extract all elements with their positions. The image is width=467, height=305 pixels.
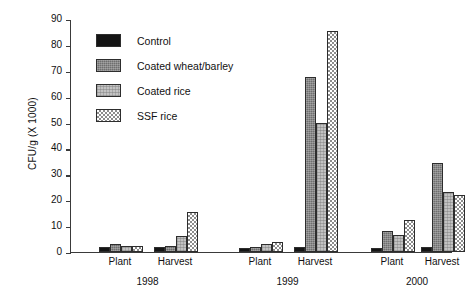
y-axis-tick-label: 90 (51, 13, 62, 24)
y-axis-tick-label: 30 (51, 168, 62, 179)
bar (99, 247, 110, 252)
legend-item: Coated rice (96, 78, 233, 103)
bar (327, 31, 338, 252)
bar (261, 244, 272, 252)
y-axis-tick-label: 0 (56, 246, 62, 257)
y-axis-tick-label: 40 (51, 142, 62, 153)
y-axis-title: CFU/g (X 1000) (27, 64, 38, 204)
bar (432, 163, 443, 252)
x-axis-sub-label: Harvest (298, 256, 332, 267)
x-axis-group-label: 2000 (406, 276, 428, 287)
bar (187, 212, 198, 252)
bar (110, 244, 121, 252)
legend-swatch-icon (96, 34, 121, 47)
y-axis-tick-mark (66, 253, 71, 254)
x-axis-group-label: 1998 (136, 276, 158, 287)
bar (443, 192, 454, 252)
x-axis-labels: PlantHarvestPlantHarvestPlantHarvest1998… (70, 256, 452, 302)
y-axis-tick-label: 80 (51, 39, 62, 50)
legend-item-label: Coated wheat/barley (137, 60, 233, 72)
legend-item-label: SSF rice (137, 110, 177, 122)
legend-swatch-icon (96, 84, 121, 97)
legend-swatch-icon (96, 59, 121, 72)
legend-item-label: Control (137, 35, 171, 47)
bar (454, 195, 465, 252)
bar (239, 248, 250, 252)
chart-legend: ControlCoated wheat/barleyCoated riceSSF… (96, 28, 233, 128)
bar (132, 246, 143, 252)
x-axis-sub-label: Plant (249, 256, 272, 267)
bar (421, 247, 432, 252)
bar-chart: CFU/g (X 1000) 0102030405060708090 Contr… (0, 0, 467, 305)
bar (305, 77, 316, 252)
y-axis-tick-label: 70 (51, 65, 62, 76)
x-axis-sub-label: Harvest (158, 256, 192, 267)
x-axis-sub-label: Plant (109, 256, 132, 267)
bar (393, 235, 404, 252)
bar (272, 242, 283, 252)
y-axis-tick-label: 60 (51, 91, 62, 102)
bar (154, 247, 165, 252)
x-axis-sub-label: Harvest (425, 256, 459, 267)
bar (404, 220, 415, 252)
bar (250, 247, 261, 252)
bar (371, 248, 382, 252)
bar (121, 246, 132, 252)
bar (165, 246, 176, 252)
y-axis-tick-label: 10 (51, 220, 62, 231)
legend-item: SSF rice (96, 103, 233, 128)
x-axis-sub-label: Plant (381, 256, 404, 267)
legend-item: Coated wheat/barley (96, 53, 233, 78)
bar (294, 247, 305, 252)
bar (176, 236, 187, 252)
y-axis-tick-label: 20 (51, 194, 62, 205)
legend-item: Control (96, 28, 233, 53)
bar (316, 123, 327, 252)
bar (382, 231, 393, 252)
x-axis-group-label: 1999 (276, 276, 298, 287)
legend-swatch-icon (96, 109, 121, 122)
legend-item-label: Coated rice (137, 85, 191, 97)
y-axis-tick-label: 50 (51, 117, 62, 128)
